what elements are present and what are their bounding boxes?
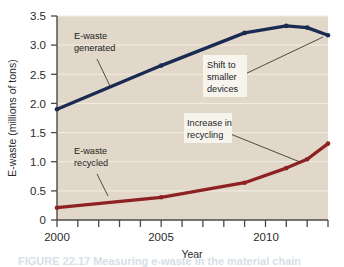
y-tick-label: 0.5 (30, 185, 46, 197)
figure-caption-text: FIGURE 22.17 Measuring e-waste in the ma… (18, 257, 330, 267)
figure-caption-clipped: FIGURE 22.17 Measuring e-waste in the ma… (18, 257, 330, 267)
y-tick-label: 3.5 (30, 10, 46, 22)
annotation-shift-note: Shift to smaller devices (203, 55, 247, 97)
y-tick-label: 1.0 (30, 156, 46, 168)
annotation-line: devices (207, 84, 239, 94)
annotation-line: recycling (187, 130, 223, 140)
annotation-line: smaller (207, 72, 237, 82)
x-tick-label: 2010 (253, 231, 279, 243)
y-tick-label: 3.0 (30, 39, 46, 51)
y-tick-label: 2.0 (30, 98, 46, 110)
x-tick-label: 2000 (44, 231, 70, 243)
annotation-recycling-note: Increase in recycling (184, 113, 232, 143)
line-chart: 3.5 3.0 2.5 2.0 1.5 1.0 0.5 0 (0, 0, 344, 267)
annotation-line: E-waste (74, 146, 107, 156)
y-tick-label: 0 (40, 214, 46, 226)
figure-container: 3.5 3.0 2.5 2.0 1.5 1.0 0.5 0 (0, 0, 344, 267)
y-tick-label: 2.5 (30, 69, 46, 81)
annotation-line: Shift to (207, 60, 236, 70)
annotation-line: generated (74, 43, 115, 53)
y-tick-label: 1.5 (30, 127, 46, 139)
annotation-line: recycled (74, 158, 108, 168)
y-axis-title: E-waste (millions of tons) (6, 59, 18, 176)
annotation-line: Increase in (187, 118, 232, 128)
x-tick-label: 2005 (148, 231, 174, 243)
annotation-line: E-waste (74, 31, 107, 41)
